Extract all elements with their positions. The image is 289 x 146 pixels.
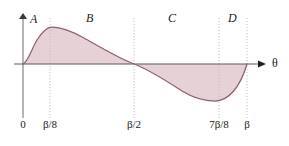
region-label-d: D: [228, 12, 237, 24]
x-axis-label-theta: θ: [272, 57, 278, 69]
tick-label-beta: β: [238, 119, 256, 130]
region-label-b: B: [86, 12, 93, 24]
tick-label-zero: 0: [13, 119, 33, 130]
region-label-a: A: [30, 13, 37, 25]
waveform-figure: A B C D 0 β/8 β/2 7β/8 β θ: [0, 0, 289, 146]
region-label-c: C: [168, 12, 176, 24]
tick-label-seven-beta-over-8: 7β/8: [201, 119, 237, 130]
tick-label-beta-over-2: β/2: [120, 119, 148, 130]
tick-label-beta-over-8: β/8: [36, 119, 64, 130]
